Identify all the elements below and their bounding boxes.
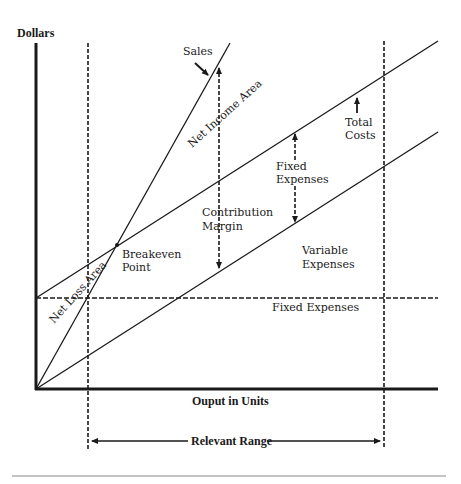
x-axis-label: Ouput in Units: [192, 394, 269, 408]
total-costs-label-line1: Total: [345, 116, 373, 129]
contribution-margin-label-line1: Contribution: [202, 206, 273, 219]
total-costs-line: [36, 41, 438, 298]
relevant-range-label: Relevant Range: [191, 434, 273, 448]
sales-label: Sales: [183, 45, 213, 58]
sales-line: [36, 43, 230, 389]
breakeven-diagram: Dollars Ouput in Units Relevant Range Sa…: [0, 0, 461, 484]
breakeven-point-marker: [115, 243, 119, 247]
breakeven-point-label-line2: Point: [122, 261, 151, 274]
fixed-expenses-lower-label: Fixed Expenses: [272, 301, 359, 314]
fixed-expenses-upper-label-line2: Expenses: [276, 173, 329, 186]
net-income-area-label: Net Income Area: [185, 77, 265, 151]
net-loss-area-label: Net Loss Area: [47, 258, 110, 326]
total-costs-label-line2: Costs: [345, 129, 376, 142]
fixed-expenses-upper-label-line1: Fixed: [276, 160, 307, 173]
variable-expenses-label-line2: Expenses: [302, 258, 355, 271]
variable-expenses-label-line1: Variable: [301, 244, 348, 257]
breakeven-point-label-line1: Breakeven: [122, 248, 181, 261]
variable-expenses-line: [36, 132, 438, 389]
y-axis-label: Dollars: [17, 26, 55, 40]
sales-pointer-arrow: [195, 63, 208, 75]
contribution-margin-label-line2: Margin: [202, 220, 243, 233]
